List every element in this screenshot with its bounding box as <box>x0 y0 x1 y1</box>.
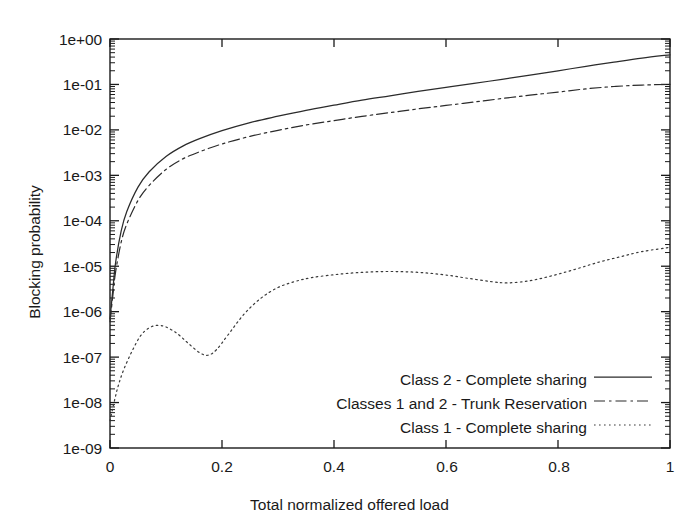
x-tick-label: 0.2 <box>192 458 252 476</box>
legend-line-samples <box>594 377 652 425</box>
x-tick-label: 0.6 <box>417 458 477 476</box>
data-series-group <box>110 55 670 421</box>
x-axis-title: Total normalized offered load <box>0 496 699 514</box>
legend-label-trunk-reservation: Classes 1 and 2 - Trunk Reservation <box>336 395 587 413</box>
x-tick-label: 0.8 <box>529 458 589 476</box>
y-axis-title: Blocking probability <box>26 142 44 362</box>
y-tick-label: 1e-02 <box>14 121 102 139</box>
y-tick-label: 1e-01 <box>14 76 102 94</box>
series-line-1 <box>110 84 670 321</box>
series-line-0 <box>110 55 670 319</box>
legend-label-class1-complete-sharing: Class 1 - Complete sharing <box>400 419 587 437</box>
y-tick-label: 1e-09 <box>14 440 102 458</box>
y-tick-label: 1e+00 <box>14 31 102 49</box>
x-tick-label: 1 <box>640 458 699 476</box>
y-tick-label: 1e-08 <box>14 394 102 412</box>
plot-canvas <box>0 0 699 529</box>
chart-figure: 1e+00 1e-01 1e-02 1e-03 1e-04 1e-05 1e-0… <box>0 0 699 529</box>
legend-label-class2-complete-sharing: Class 2 - Complete sharing <box>400 371 587 389</box>
x-tick-label: 0.4 <box>304 458 364 476</box>
x-tick-label: 0 <box>80 458 140 476</box>
